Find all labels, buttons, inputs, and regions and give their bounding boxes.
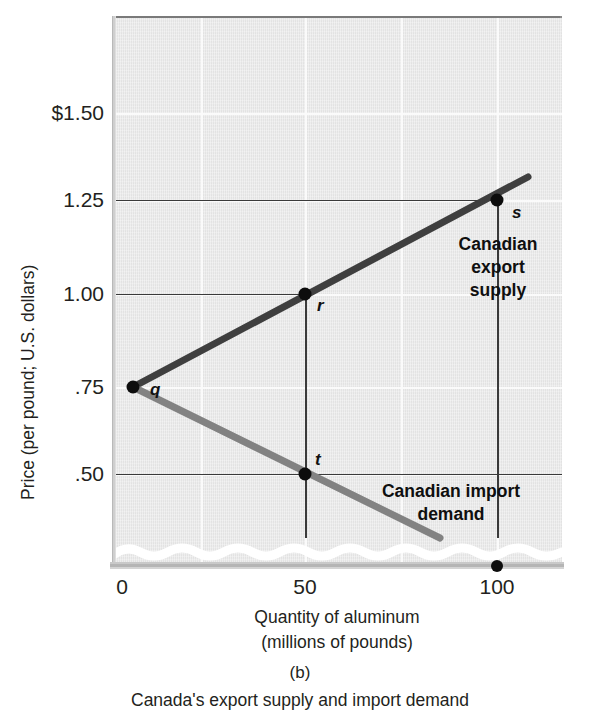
y-tick-label-150: $1.50 xyxy=(0,101,104,125)
data-point-s xyxy=(491,194,504,207)
data-point-t xyxy=(299,468,312,481)
x-axis-title: Quantity of aluminum (millions of pounds… xyxy=(112,605,562,655)
import-demand-label-line1: Canadian import xyxy=(342,480,560,503)
export-supply-label-line1: Canadian xyxy=(402,233,594,256)
x-tick-label-0: 0 xyxy=(116,575,128,599)
x-axis-marker-100 xyxy=(491,560,503,572)
figure-caption: Canada's export supply and import demand xyxy=(0,690,600,711)
plot-area: q r s t Canadian export supply Canadian … xyxy=(112,18,562,566)
import-demand-label: Canadian import demand xyxy=(342,480,560,526)
x-tick-label-100: 100 xyxy=(479,575,514,599)
x-tick-label-50: 50 xyxy=(293,575,316,599)
y-axis-title: Price (per pound; U.S. dollars) xyxy=(18,170,39,500)
y-tick-label-100: 1.00 xyxy=(0,282,104,306)
data-point-label-t: t xyxy=(315,450,321,470)
panel-letter: (b) xyxy=(0,663,600,683)
export-supply-label: Canadian export supply xyxy=(402,233,594,302)
export-supply-label-line3: supply xyxy=(402,279,594,302)
data-point-label-s: s xyxy=(512,203,521,223)
figure-container: Price (per pound; U.S. dollars) $1.50 1.… xyxy=(0,0,600,720)
export-supply-label-line2: export xyxy=(402,256,594,279)
import-demand-label-line2: demand xyxy=(342,503,560,526)
y-tick-label-050: .50 xyxy=(0,462,104,486)
x-axis-title-line2: (millions of pounds) xyxy=(112,630,562,655)
x-axis-title-line1: Quantity of aluminum xyxy=(112,605,562,630)
data-point-q xyxy=(127,381,140,394)
data-point-label-q: q xyxy=(150,380,160,400)
y-axis-spine xyxy=(112,16,116,568)
data-point-label-r: r xyxy=(317,296,324,316)
y-tick-label-125: 1.25 xyxy=(0,188,104,212)
data-point-r xyxy=(299,288,312,301)
y-tick-label-075: .75 xyxy=(0,375,104,399)
